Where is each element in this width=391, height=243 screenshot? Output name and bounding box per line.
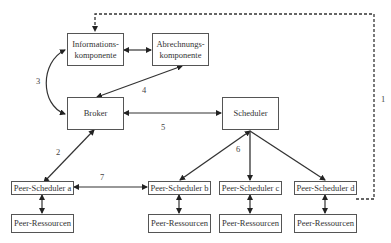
abrechnungskomponente-line2: komponente (159, 50, 201, 61)
peer-scheduler-d-box: Peer-Scheduler d (294, 181, 357, 195)
edge-6-b (180, 131, 250, 180)
peer-scheduler-d-label: Peer-Scheduler d (296, 183, 354, 194)
peer-scheduler-c-label: Peer-Scheduler c (222, 183, 280, 194)
peer-ressourcen-c-label: Peer-Ressourcen (222, 218, 279, 229)
peer-ressourcen-b-box: Peer-Ressourcen (148, 214, 211, 233)
edge-label-7: 7 (100, 172, 104, 182)
scheduler-label: Scheduler (234, 108, 268, 119)
edge-label-1: 1 (381, 94, 385, 104)
informationskomponente-line1: Informations- (72, 39, 119, 50)
broker-label: Broker (84, 108, 108, 119)
peer-scheduler-a-box: Peer-Scheduler a (11, 181, 74, 195)
peer-scheduler-a-label: Peer-Scheduler a (14, 183, 72, 194)
edge-label-5: 5 (161, 122, 165, 132)
peer-ressourcen-a-box: Peer-Ressourcen (11, 214, 74, 233)
peer-ressourcen-a-label: Peer-Ressourcen (14, 218, 71, 229)
informationskomponente-box: Informations- komponente (67, 33, 124, 66)
edge-6-d (250, 131, 325, 180)
edge-label-3: 3 (36, 76, 40, 86)
peer-scheduler-c-box: Peer-Scheduler c (219, 181, 282, 195)
peer-ressourcen-c-box: Peer-Ressourcen (219, 214, 282, 233)
abrechnungskomponente-line1: Abrechnungs- (156, 39, 204, 50)
edge-2 (44, 130, 94, 182)
edge-3 (46, 50, 65, 114)
scheduler-box: Scheduler (222, 97, 279, 130)
broker-box: Broker (67, 97, 124, 130)
peer-ressourcen-b-label: Peer-Ressourcen (151, 218, 208, 229)
peer-scheduler-b-box: Peer-Scheduler b (148, 181, 211, 195)
peer-ressourcen-d-box: Peer-Ressourcen (294, 214, 357, 233)
peer-scheduler-b-label: Peer-Scheduler b (150, 183, 208, 194)
edge-label-6: 6 (236, 144, 240, 154)
edge-label-4: 4 (142, 85, 146, 95)
peer-ressourcen-d-label: Peer-Ressourcen (297, 218, 354, 229)
edge-4 (97, 66, 182, 97)
abrechnungskomponente-box: Abrechnungs- komponente (152, 33, 209, 66)
edge-label-2: 2 (56, 147, 60, 157)
informationskomponente-line2: komponente (74, 50, 116, 61)
